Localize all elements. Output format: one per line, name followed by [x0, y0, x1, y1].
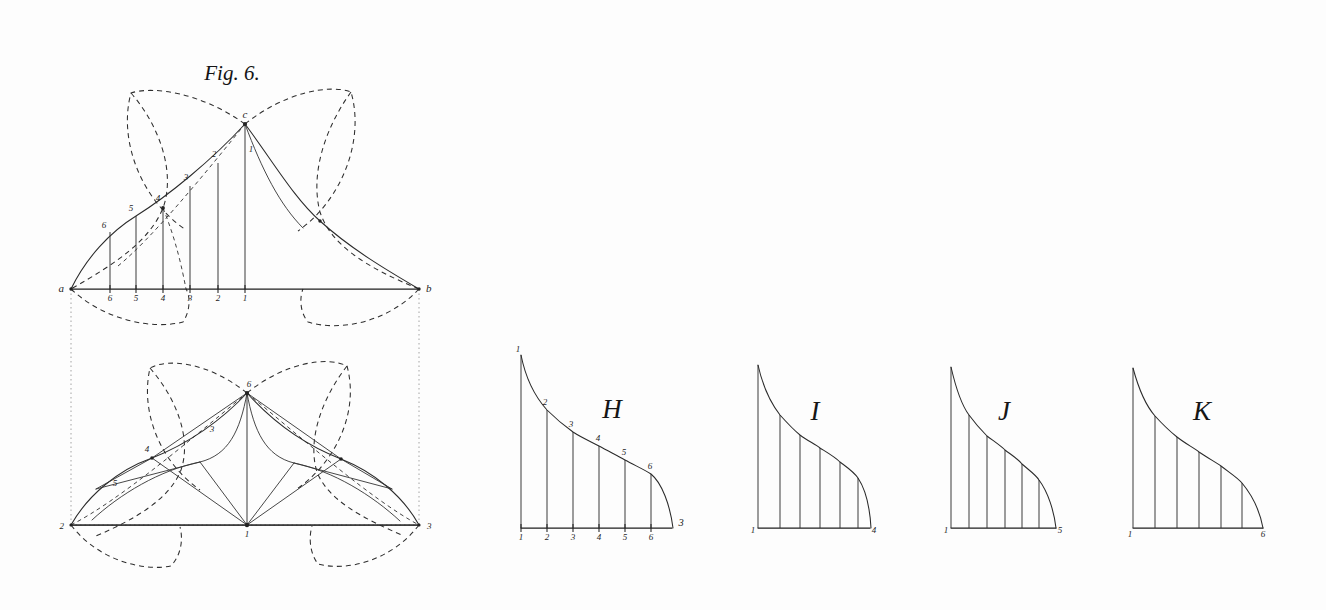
chart-H-endlabel: 3: [677, 517, 683, 528]
node-4: [161, 206, 165, 210]
chart-H-baselabel-1: 1: [519, 532, 524, 542]
chart-H-ordlabel-1: 1: [516, 344, 521, 354]
chart-H-baselabel-2: 2: [545, 532, 550, 542]
lower-node-1: [245, 523, 249, 527]
petal-below-right: [301, 289, 419, 326]
node-b: [417, 287, 420, 290]
chord-5r-right: [294, 463, 392, 489]
lower-node-4r: [339, 457, 343, 461]
engraving-plate: Fig. 6.: [0, 0, 1326, 610]
figure-title: Fig. 6.: [203, 61, 259, 85]
lower-petal-left: [96, 368, 185, 536]
chart-K-title: K: [1192, 396, 1213, 426]
chart-I-curve: [758, 365, 871, 528]
figure-upper-group: a b c 6 5 4 3 2 1 6 5 4 3 2 1: [59, 89, 433, 525]
lower-node-6: [245, 391, 249, 395]
chart-H-baselabel-4: 4: [597, 532, 602, 542]
chart-H-ordlabel-4: 4: [596, 433, 601, 443]
chord-4r-right: [341, 459, 392, 489]
lower-node-2: [69, 523, 72, 526]
curve-upper-right-branch: [245, 124, 419, 289]
chart-H-ordlabel-6: 6: [648, 461, 653, 471]
chart-J-endlabel: 5: [1058, 525, 1063, 535]
lower-node-4l: [150, 456, 154, 460]
petal-upper-right: [245, 89, 355, 231]
chart-J-startlabel: 1: [944, 525, 949, 535]
lower-arc-left: [71, 393, 247, 525]
curve-upper-inner-right: [245, 124, 303, 228]
ordlabel-upper-5: 5: [129, 203, 134, 213]
lower-chord-right: [247, 393, 419, 525]
petal-right-lower: [317, 92, 419, 289]
lower-petal-right: [314, 366, 404, 536]
chart-J-curve: [951, 367, 1056, 528]
chord-a-to-c: [118, 124, 245, 266]
chart-K-curve: [1133, 368, 1263, 528]
chart-H: H 1 2 3 4 5 6 1 2 3 4 5 6 3: [516, 344, 684, 542]
chart-I-startlabel: 1: [751, 525, 756, 535]
chart-H-title: H: [601, 394, 623, 424]
chart-H-ordlabel-2: 2: [543, 397, 548, 407]
label-b: b: [426, 282, 432, 294]
chart-H-baselabel-3: 3: [570, 532, 576, 542]
chart-H-ordlabel-5: 5: [622, 447, 627, 457]
chord-left-5: [96, 462, 200, 489]
lower-label-diag-3: 3: [209, 424, 215, 434]
baselabel-upper-6: 6: [108, 293, 113, 303]
chord-left-4: [96, 458, 152, 489]
chart-H-ordlabel-3: 3: [568, 419, 574, 429]
node-right-cross: [318, 219, 321, 222]
petal-below-left: [71, 289, 189, 325]
chart-K-endlabel: 6: [1261, 529, 1266, 539]
lower-petal-below-left: [71, 525, 181, 567]
ordlabel-upper-1: 1: [249, 144, 254, 154]
node-a: [69, 287, 72, 290]
chart-H-baselabel-6: 6: [649, 532, 654, 542]
lower-node-3: [417, 523, 420, 526]
chart-I-endlabel: 4: [872, 525, 877, 535]
baselabel-upper-5: 5: [134, 293, 139, 303]
lower-label-diag-5: 5: [113, 478, 118, 488]
plate-canvas: Fig. 6.: [0, 0, 1326, 610]
chart-J: J 1 5: [944, 367, 1063, 535]
label-a: a: [59, 282, 65, 294]
spoke-to-5l: [200, 462, 247, 525]
lower-label-diag-4: 4: [145, 444, 150, 454]
lower-label-apex: 6: [247, 379, 252, 389]
chart-I: I 1 4: [751, 365, 877, 535]
ordlabel-upper-2: 2: [212, 149, 217, 159]
lower-petal-upper-right: [247, 362, 350, 489]
baselabel-upper-3: 3: [187, 293, 193, 303]
lower-petal-below-right: [310, 525, 419, 566]
baselabel-upper-1: 1: [243, 293, 248, 303]
chord-4r-6: [247, 393, 341, 459]
spoke-to-4l: [152, 458, 247, 525]
spoke-to-4r: [247, 459, 341, 525]
lower-arc-right: [247, 393, 419, 525]
lower-chord-left: [71, 393, 247, 525]
chart-H-baselabel-5: 5: [623, 532, 628, 542]
ordlabel-upper-3: 3: [183, 172, 189, 182]
figure-lower-group: 2 3 1 6 3 4 5: [60, 362, 433, 568]
petal-left-lower: [71, 93, 167, 289]
spoke-to-5r: [247, 463, 294, 525]
node-c: [243, 122, 247, 126]
chart-I-title: I: [810, 396, 822, 426]
label-c: c: [243, 108, 248, 120]
chart-K-startlabel: 1: [1128, 529, 1133, 539]
baselabel-upper-2: 2: [216, 293, 221, 303]
chart-K: K 1 6: [1128, 368, 1266, 539]
petal-upper-left: [127, 90, 245, 230]
ordlabel-upper-4: 4: [156, 193, 161, 203]
ordlabel-upper-6: 6: [102, 220, 107, 230]
lower-label-center: 1: [245, 529, 250, 539]
arc-through-4: [163, 208, 186, 289]
chart-J-title: J: [998, 396, 1012, 426]
chord-4l-6: [152, 393, 247, 458]
curve-upper-left-branch: [71, 124, 245, 289]
baselabel-upper-4: 4: [161, 293, 166, 303]
lower-label-right: 3: [426, 521, 432, 531]
lower-label-left: 2: [60, 521, 65, 531]
